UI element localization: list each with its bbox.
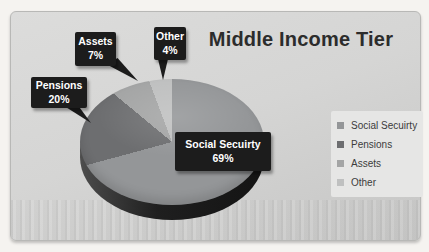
legend-item-label: Pensions bbox=[351, 139, 392, 150]
legend-item-other: Other bbox=[337, 173, 423, 192]
chart-canvas: Middle Income Tier Social Secuirty 69% P… bbox=[10, 11, 421, 241]
legend-item-social-secuirty: Social Secuirty bbox=[337, 116, 423, 135]
page: Middle Income Tier Social Secuirty 69% P… bbox=[0, 0, 429, 252]
legend-marker-icon bbox=[337, 122, 344, 129]
callout-label: Pensions bbox=[31, 79, 87, 93]
legend-item-label: Assets bbox=[351, 158, 381, 169]
legend-marker-icon bbox=[337, 179, 344, 186]
callout-pensions: Pensions 20% bbox=[31, 77, 87, 108]
legend-item-label: Other bbox=[351, 177, 376, 188]
callout-value: 20% bbox=[31, 93, 87, 107]
callout-label: Assets bbox=[75, 35, 116, 49]
chart-title: Middle Income Tier bbox=[206, 28, 396, 51]
legend-item-pensions: Pensions bbox=[337, 135, 423, 154]
callout-assets: Assets 7% bbox=[75, 32, 116, 66]
legend-marker-icon bbox=[337, 160, 344, 167]
callout-pointer-other bbox=[158, 59, 168, 80]
callout-value: 69% bbox=[175, 152, 271, 166]
callout-label: Social Secuirty bbox=[175, 138, 271, 152]
callout-other: Other 4% bbox=[154, 27, 186, 60]
callout-social-secuirty: Social Secuirty 69% bbox=[175, 132, 271, 171]
callout-value: 4% bbox=[154, 44, 186, 58]
legend-item-label: Social Secuirty bbox=[351, 120, 417, 131]
callout-value: 7% bbox=[75, 49, 116, 63]
legend-marker-icon bbox=[337, 141, 344, 148]
legend-item-assets: Assets bbox=[337, 154, 423, 173]
legend: Social Secuirty Pensions Assets Other bbox=[331, 111, 423, 197]
callout-label: Other bbox=[154, 30, 186, 44]
